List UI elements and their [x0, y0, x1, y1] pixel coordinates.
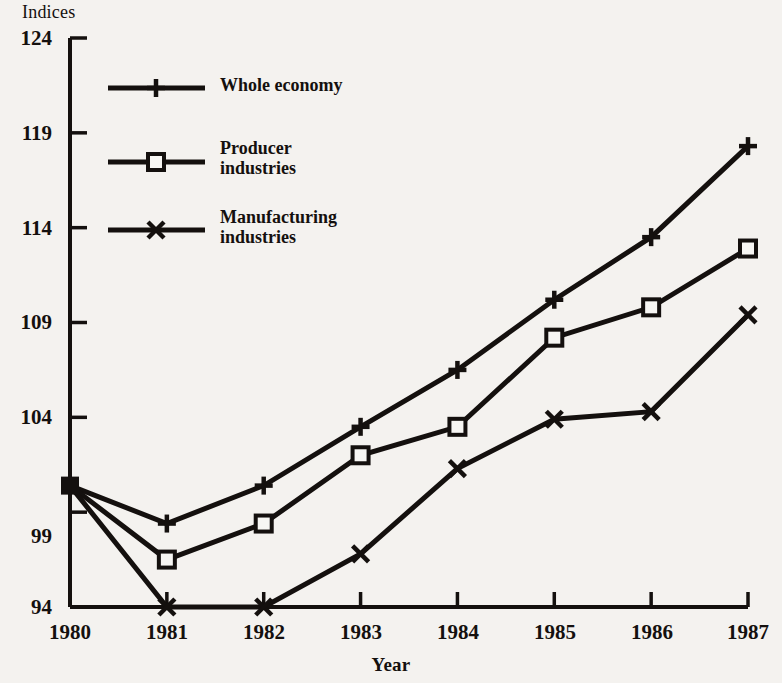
data-point-plus-marker — [158, 515, 176, 533]
series-line — [70, 146, 748, 523]
data-point-x-marker — [449, 461, 465, 477]
data-point-x-marker — [740, 307, 756, 323]
data-point-square-marker — [256, 516, 272, 532]
legend-swatch-0 — [108, 79, 205, 97]
data-point-square-marker — [643, 299, 659, 315]
data-point-square-marker — [449, 419, 465, 435]
data-point-square-marker — [159, 552, 175, 568]
legend-swatch-1 — [108, 154, 205, 170]
data-point-square-marker — [546, 330, 562, 346]
series-whole-economy — [70, 137, 757, 532]
data-point-square-marker — [740, 241, 756, 257]
legend-marker-swatches — [108, 79, 205, 238]
legend-plus-marker — [147, 79, 165, 97]
line-chart: Indices Year 124 119 114 109 104 99 94 1… — [0, 0, 782, 683]
y-axis-ticks — [70, 38, 87, 607]
series-layer — [61, 137, 757, 615]
legend-square-marker — [148, 154, 164, 170]
data-point-square-marker — [353, 447, 369, 463]
chart-canvas — [0, 0, 782, 683]
legend-swatch-2 — [108, 222, 205, 238]
data-point-x-marker — [353, 546, 369, 562]
origin-marker-1980 — [61, 477, 79, 495]
